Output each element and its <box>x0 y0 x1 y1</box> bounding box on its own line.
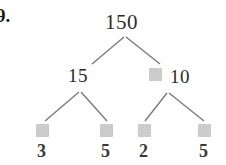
factor-tree-diagram: 9. 150 15 10 3 5 2 5 <box>0 0 226 165</box>
node-leaf-2: 2 <box>139 142 148 160</box>
blank-box-for-2[interactable] <box>138 124 151 137</box>
blank-box-for-3[interactable] <box>36 124 49 137</box>
blank-box-for-5-left[interactable] <box>100 124 113 137</box>
edge-15-to-5 <box>81 92 107 121</box>
edge-15-to-3 <box>45 92 79 121</box>
edge-10-to-2 <box>145 93 167 121</box>
node-root-150: 150 <box>105 12 138 33</box>
exercise-number-label: 9. <box>0 6 10 25</box>
edge-root-to-15 <box>92 37 124 64</box>
blank-box-for-5-right[interactable] <box>198 124 211 137</box>
node-leaf-5-right: 5 <box>199 142 208 160</box>
node-level1-15: 15 <box>68 66 88 85</box>
edge-10-to-5 <box>169 93 204 121</box>
node-leaf-3: 3 <box>37 142 46 160</box>
node-leaf-5-left: 5 <box>101 142 110 160</box>
blank-box-for-10[interactable] <box>149 68 162 81</box>
node-level1-10: 10 <box>170 67 190 86</box>
edge-root-to-10 <box>126 37 160 64</box>
